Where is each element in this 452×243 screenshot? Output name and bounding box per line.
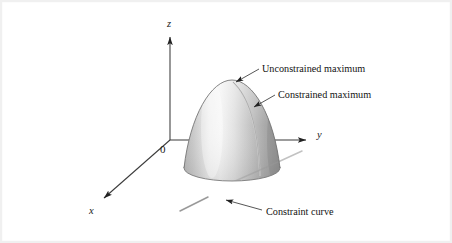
y-axis-label: y (316, 129, 322, 140)
leader-constraint-curve (226, 200, 262, 210)
label-constraint-curve: Constraint curve (266, 206, 334, 217)
label-constrained-maximum: Constrained maximum (278, 89, 371, 100)
x-axis-label: x (88, 205, 94, 216)
dome-highlight-streak (201, 78, 223, 178)
constraint-line-front (180, 197, 208, 211)
leader-unconstrained-maximum (236, 69, 259, 82)
origin-label: 0 (160, 143, 166, 155)
z-axis-label: z (166, 18, 171, 29)
constraint-line-rear (278, 151, 302, 162)
paraboloid-surface (184, 78, 285, 186)
figure-root: z y x 0 (0, 0, 452, 243)
lagrange-multiplier-diagram: z y x 0 (0, 0, 452, 243)
dome-fill-vertical-shade (184, 80, 280, 181)
label-unconstrained-maximum: Unconstrained maximum (262, 63, 365, 74)
